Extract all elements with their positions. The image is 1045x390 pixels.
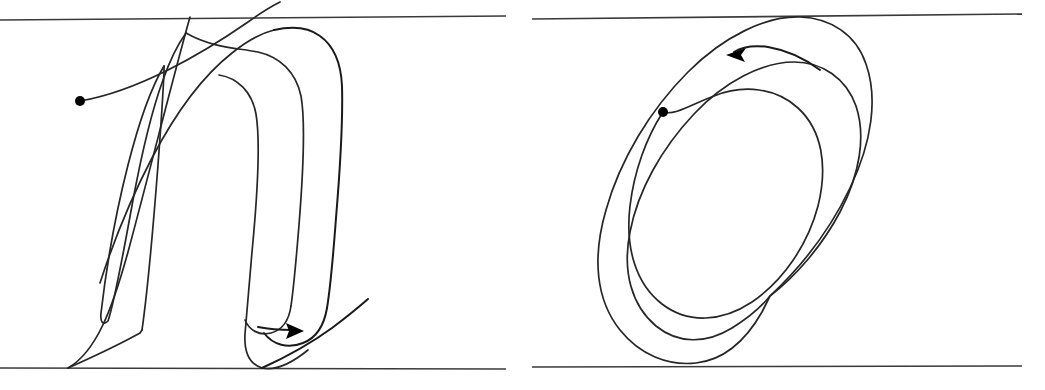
o-middle-loop: [627, 62, 860, 340]
figure-canvas: [0, 0, 1045, 390]
n-arrow-shaft: [258, 327, 292, 330]
panel-right: [532, 14, 1022, 367]
guideline-bottom-right: [532, 366, 1022, 367]
n-outer-arch: [274, 28, 342, 308]
guideline-bottom-left: [0, 368, 506, 369]
n-exit-tail: [262, 299, 368, 368]
n-second-shaft: [219, 75, 308, 369]
guideline-top-right: [532, 14, 1022, 19]
n-outer-descender: [264, 308, 327, 346]
n-inner-arch: [186, 33, 304, 306]
o-start-dot-icon: [658, 107, 668, 117]
n-start-dot-icon: [75, 96, 85, 106]
o-arrow-shaft: [734, 46, 820, 70]
n-arrowhead-icon: [286, 323, 304, 339]
n-upstroke-to-arch: [100, 30, 274, 283]
n-parallelogram-bottom-edge: [68, 330, 142, 368]
o-inner-loop: [629, 89, 823, 318]
panel-left: [0, 2, 506, 369]
handwriting-figure: n o Handwritten letter stroke trajectori…: [0, 0, 1045, 390]
n-outer-left-shaft: [68, 17, 190, 368]
